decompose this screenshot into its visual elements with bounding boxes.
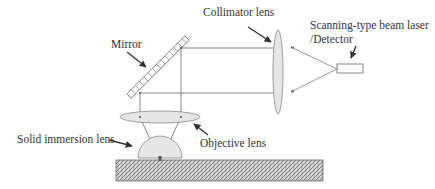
label-objective-lens: Objective lens [200,137,267,150]
solid-immersion-lens [138,136,182,158]
sample-substrate [116,160,323,181]
label-laser-line2: /Detector [310,33,353,45]
label-laser-line1: Scanning-type beam laser [310,19,429,32]
diagram-canvas: Collimator lens Scanning-type beam laser… [0,0,435,189]
collimator-lens [273,30,283,114]
laser-detector-box [337,64,363,73]
label-collimator-lens: Collimator lens [203,6,275,18]
label-mirror: Mirror [111,38,142,50]
objective-lens [120,111,200,123]
laser-beams [291,47,337,92]
focal-spot [159,156,162,161]
label-solid-immersion-lens: Solid immersion lens [17,133,115,145]
